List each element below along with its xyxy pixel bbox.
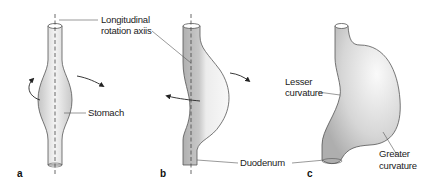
panel-b-tube	[167, 14, 249, 176]
rotation-arrow-icon	[230, 73, 249, 81]
label-lesser-line1: Lesser	[285, 76, 312, 87]
panel-a-tube	[29, 14, 103, 176]
label-stomach: Stomach	[88, 107, 124, 118]
rotation-arrow-icon	[77, 76, 103, 86]
panel-label-c: c	[307, 168, 313, 179]
panel-c-stomach	[322, 24, 400, 164]
label-lesser-line2: curvature	[285, 87, 323, 98]
panel-label-b: b	[160, 168, 166, 179]
panel-label-a: a	[17, 168, 23, 179]
stomach-rotation-diagram	[0, 0, 431, 186]
label-axis-line2: rotation axiis	[101, 25, 152, 36]
label-axis-line1: Longitudinal	[101, 14, 150, 25]
label-greater-line2: curvature	[379, 160, 417, 171]
label-duodenum: Duodenum	[240, 157, 285, 168]
label-greater-line1: Greater	[379, 148, 410, 159]
